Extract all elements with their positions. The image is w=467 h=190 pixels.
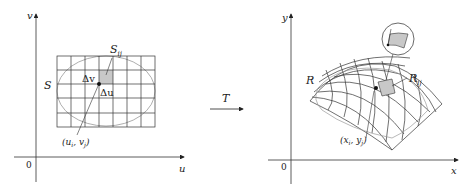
rij-label: Rij	[408, 72, 423, 87]
region-s-label: S	[44, 79, 52, 92]
magnified-point	[387, 44, 390, 47]
v-axis-label: v	[27, 10, 33, 21]
region-r-label: R	[305, 74, 314, 87]
point-leader	[77, 86, 98, 135]
subregion-rij	[378, 79, 395, 96]
sij-label: Sij	[110, 43, 123, 58]
right-xy-plane: y x 0	[268, 12, 458, 184]
delta-u-label: Δu	[100, 87, 114, 98]
curved-grid	[310, 57, 442, 150]
sample-point-uv	[97, 82, 101, 86]
u-axis-label: u	[179, 163, 185, 174]
transform-label: T	[222, 92, 231, 105]
point-uv-label: (ui, vj)	[62, 137, 90, 149]
sample-point-xy	[374, 86, 378, 90]
left-uv-plane: v u 0 S Sij Δv Δu	[14, 10, 185, 182]
rij-leader	[392, 78, 407, 86]
subrect-sij	[99, 70, 113, 84]
transform-arrow: T	[210, 92, 243, 109]
change-of-variables-diagram: v u 0 S Sij Δv Δu	[0, 0, 467, 190]
origin-label: 0	[26, 160, 32, 170]
origin-label-right: 0	[281, 162, 287, 172]
point-xy-leader	[366, 91, 374, 138]
point-xy-label: (xi, yj)	[340, 135, 367, 147]
delta-v-label: Δv	[82, 73, 95, 84]
magnifier-leader	[386, 54, 393, 80]
y-axis-label: y	[281, 12, 288, 23]
x-axis-label: x	[451, 165, 457, 176]
